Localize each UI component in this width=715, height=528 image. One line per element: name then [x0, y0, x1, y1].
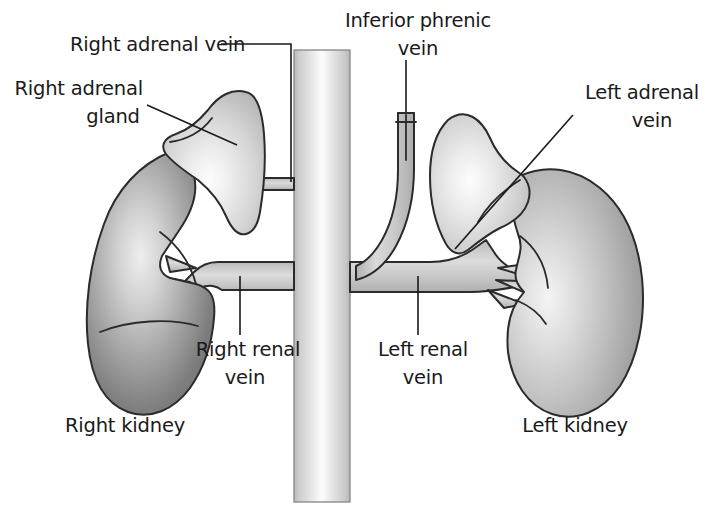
label-right-renal-vein-line1: Right renal: [196, 338, 301, 361]
label-right-adrenal-gland-line2: gland: [86, 105, 139, 128]
label-left-renal-vein-line1: Left renal: [378, 338, 468, 361]
label-left-renal-vein-line2: vein: [403, 366, 444, 389]
left-adrenal-gland: [430, 114, 530, 253]
inferior-phrenic-vein: [356, 113, 416, 280]
label-left-adrenal-vein-line2: vein: [632, 109, 673, 132]
label-right-adrenal-vein: Right adrenal vein: [70, 33, 245, 56]
label-left-kidney: Left kidney: [522, 414, 628, 437]
ivc-trunk: [294, 50, 350, 502]
label-right-adrenal-gland-line1: Right adrenal: [14, 77, 143, 100]
anatomy-diagram-canvas: Right adrenal vein Right adrenal gland I…: [0, 0, 715, 528]
left-kidney-body: [507, 169, 643, 416]
left-kidney: [507, 169, 643, 416]
label-right-renal-vein-line2: vein: [225, 366, 266, 389]
anatomy-figure: Right adrenal vein Right adrenal gland I…: [0, 0, 715, 528]
inferior-vena-cava: [294, 50, 350, 502]
label-inferior-phrenic-vein-line2: vein: [398, 37, 439, 60]
label-left-adrenal-vein-line1: Left adrenal: [585, 81, 699, 104]
label-inferior-phrenic-vein-line1: Inferior phrenic: [345, 9, 491, 32]
right-kidney: [87, 151, 215, 415]
label-right-kidney: Right kidney: [65, 414, 185, 437]
